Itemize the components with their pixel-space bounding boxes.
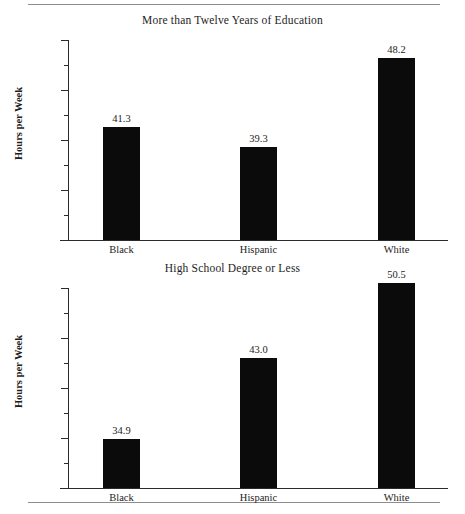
- y-tick-major: [61, 288, 69, 289]
- y-tick-minor: [64, 115, 70, 116]
- y-axis-title: Hours per Week: [13, 320, 24, 424]
- y-tick-major: [61, 90, 69, 91]
- y-tick-minor: [64, 65, 70, 66]
- y-tick-major: [61, 40, 69, 41]
- bar-value-white: 48.2: [366, 44, 427, 55]
- plot-area: 303540455034.9Black43.0Hispanic50.5White: [68, 288, 448, 488]
- x-axis-line: [60, 240, 448, 241]
- bar-value-white: 50.5: [366, 269, 427, 280]
- bar-value-hispanic: 39.3: [228, 133, 289, 144]
- x-category-label-white: White: [353, 244, 440, 255]
- x-category-label-black: Black: [78, 244, 165, 255]
- y-tick-major: [61, 388, 69, 389]
- y-tick-minor: [64, 413, 70, 414]
- y-tick-major: [61, 338, 69, 339]
- chart-panel-more-than-twelve-years: More than Twelve Years of Education Hour…: [0, 14, 465, 254]
- y-tick-major: [61, 438, 69, 439]
- bar-black: [103, 439, 140, 488]
- x-category-label-white: White: [353, 492, 440, 503]
- y-tick-major: [61, 488, 69, 489]
- x-category-label-black: Black: [78, 492, 165, 503]
- bar-white: [378, 283, 415, 488]
- y-tick-minor: [64, 215, 70, 216]
- x-category-label-hispanic: Hispanic: [215, 244, 302, 255]
- y-tick-minor: [64, 165, 70, 166]
- y-axis-title: Hours per Week: [13, 72, 24, 176]
- bar-value-hispanic: 43.0: [228, 344, 289, 355]
- bar-hispanic: [240, 358, 277, 488]
- figure-page: More than Twelve Years of Education Hour…: [0, 0, 465, 514]
- bar-hispanic: [240, 147, 277, 240]
- x-category-label-hispanic: Hispanic: [215, 492, 302, 503]
- bar-value-black: 34.9: [91, 425, 152, 436]
- top-rule: [28, 4, 440, 5]
- bar-white: [378, 58, 415, 240]
- y-tick-major: [61, 190, 69, 191]
- y-tick-minor: [64, 363, 70, 364]
- bar-value-black: 41.3: [91, 113, 152, 124]
- chart-panel-high-school-degree-or-less: High School Degree or Less Hours per Wee…: [0, 262, 465, 502]
- y-tick-major: [61, 240, 69, 241]
- y-tick-major: [61, 140, 69, 141]
- plot-area: 303540455041.3Black39.3Hispanic48.2White: [68, 40, 448, 240]
- chart-title: More than Twelve Years of Education: [0, 14, 465, 26]
- y-tick-minor: [64, 463, 70, 464]
- bar-black: [103, 127, 140, 240]
- x-axis-line: [60, 488, 448, 489]
- y-tick-minor: [64, 313, 70, 314]
